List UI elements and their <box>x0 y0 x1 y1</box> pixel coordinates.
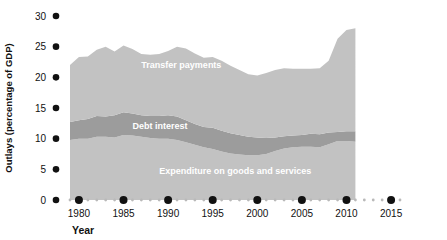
x-minor-dot-2004 <box>292 199 295 202</box>
x-minor-dot-1988 <box>149 199 152 202</box>
x-tick-label-2005: 2005 <box>291 208 314 219</box>
x-minor-dot-1992 <box>185 199 188 202</box>
y-tick-dot-15 <box>53 105 60 112</box>
x-minor-dot-2008 <box>327 199 330 202</box>
x-tick-label-1985: 1985 <box>112 208 135 219</box>
y-axis-title: Outlays (percentage of GDP) <box>3 43 14 172</box>
x-minor-dot-1983 <box>104 199 107 202</box>
x-minor-dot-1997 <box>229 199 232 202</box>
chart-canvas: 0510152025301980198519901995200020052010… <box>0 0 447 240</box>
y-tick-label-20: 20 <box>35 72 47 83</box>
x-minor-dot-2006 <box>309 199 312 202</box>
x-tick-dot-1990 <box>164 196 172 204</box>
x-minor-dot-1996 <box>220 199 223 202</box>
y-tick-label-0: 0 <box>40 195 46 206</box>
x-minor-dot-1989 <box>158 199 161 202</box>
x-tick-label-1990: 1990 <box>157 208 180 219</box>
y-tick-label-25: 25 <box>35 41 47 52</box>
x-axis-title: Year <box>72 224 94 236</box>
x-tick-label-2015: 2015 <box>380 208 403 219</box>
x-tick-dot-1995 <box>209 196 217 204</box>
x-minor-dot-2009 <box>336 199 339 202</box>
x-tick-dot-2015 <box>387 196 395 204</box>
y-tick-label-15: 15 <box>35 103 47 114</box>
x-minor-dot-2007 <box>318 199 321 202</box>
x-minor-dot-2013 <box>372 199 375 202</box>
x-tick-label-2010: 2010 <box>335 208 358 219</box>
x-minor-dot-2003 <box>283 199 286 202</box>
y-tick-label-5: 5 <box>40 164 46 175</box>
stacked-area-chart: 0510152025301980198519901995200020052010… <box>0 0 447 240</box>
x-minor-dot-1994 <box>202 199 205 202</box>
y-tick-label-10: 10 <box>35 133 47 144</box>
x-tick-dot-1980 <box>75 196 83 204</box>
x-minor-dot-2014 <box>381 199 384 202</box>
x-minor-dot-1999 <box>247 199 250 202</box>
x-tick-dot-1985 <box>120 196 128 204</box>
x-minor-dot-1998 <box>238 199 241 202</box>
x-minor-dot-2011 <box>354 199 357 202</box>
x-minor-dot-1982 <box>95 199 98 202</box>
x-minor-dot-1986 <box>131 199 134 202</box>
x-minor-dot-1981 <box>86 199 89 202</box>
y-tick-dot-25 <box>53 43 60 50</box>
x-tick-dot-2000 <box>253 196 261 204</box>
x-tick-label-1980: 1980 <box>68 208 91 219</box>
y-tick-dot-5 <box>53 166 60 173</box>
x-tick-label-1995: 1995 <box>202 208 225 219</box>
y-tick-dot-0 <box>53 197 60 204</box>
x-tick-dot-2005 <box>298 196 306 204</box>
x-tick-dot-2010 <box>342 196 350 204</box>
series-annotation-0: Transfer payments <box>141 60 221 70</box>
x-minor-dot-1993 <box>193 199 196 202</box>
x-tick-label-2000: 2000 <box>246 208 269 219</box>
x-minor-dot-1984 <box>113 199 116 202</box>
x-minor-dot-2001 <box>265 199 268 202</box>
y-tick-dot-30 <box>53 13 60 20</box>
x-minor-dot-2012 <box>363 199 366 202</box>
y-tick-dot-20 <box>53 74 60 81</box>
series-annotation-2: Expenditure on goods and services <box>159 166 311 176</box>
x-minor-dot-1987 <box>140 199 143 202</box>
x-minor-dot-1991 <box>176 199 179 202</box>
x-minor-dot-1979 <box>69 199 72 202</box>
y-tick-dot-10 <box>53 135 60 142</box>
series-annotation-1: Debt interest <box>132 121 187 131</box>
x-minor-dot-2016 <box>399 199 402 202</box>
y-tick-label-30: 30 <box>35 11 47 22</box>
x-minor-dot-2002 <box>274 199 277 202</box>
